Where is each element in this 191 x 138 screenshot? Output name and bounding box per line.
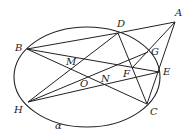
point-label-D: D — [117, 19, 125, 29]
point-label-F: F — [123, 69, 130, 79]
geometry-figure: A D B G M E F N O H C α — [0, 0, 191, 138]
plane-label-alpha: α — [55, 121, 62, 131]
point-label-E: E — [163, 67, 170, 77]
point-label-G: G — [151, 47, 159, 57]
point-label-B: B — [15, 43, 22, 53]
point-label-C: C — [150, 107, 158, 117]
point-label-O: O — [80, 79, 88, 89]
point-label-M: M — [66, 57, 76, 67]
point-label-N: N — [101, 74, 110, 84]
segment-BD — [27, 33, 118, 49]
point-label-A: A — [175, 8, 182, 18]
point-label-H: H — [14, 105, 23, 115]
segment-AC — [147, 22, 175, 104]
